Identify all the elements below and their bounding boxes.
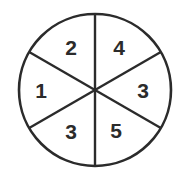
sector-label-upper-right: 4 [113,36,125,59]
sector-label-lower-left: 3 [65,120,77,143]
sector-label-right: 3 [137,79,149,102]
sector-label-lower-right: 5 [110,119,122,142]
sector-label-left: 1 [35,79,47,102]
sector-label-upper-left: 2 [65,36,77,59]
spinner-diagram: 2 4 3 5 3 1 [0,0,174,181]
